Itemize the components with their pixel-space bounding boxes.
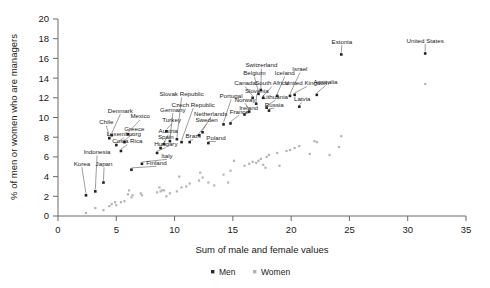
y-tick-label: 4	[44, 171, 49, 182]
legend-men-label: Men	[219, 267, 236, 277]
data-point-women	[165, 195, 167, 197]
y-axis-title: % of men or women who are managers	[8, 34, 19, 200]
x-tick-label: 0	[55, 224, 60, 235]
data-point-label: Brazil	[185, 132, 200, 139]
x-tick-label: 35	[461, 224, 472, 235]
data-point-women	[262, 164, 264, 166]
data-point-label: Mexico	[130, 112, 150, 119]
x-tick-label: 15	[228, 224, 239, 235]
data-point-men	[141, 162, 144, 165]
point-labels: KoreaIndonesiaJapanChileDenmarkLuxembour…	[74, 37, 444, 167]
data-point-women	[257, 160, 259, 162]
data-point-women	[268, 154, 270, 156]
data-point-women	[130, 196, 132, 198]
data-point-women	[169, 192, 171, 194]
data-point-label: Norway	[235, 96, 257, 103]
data-point-men	[108, 137, 111, 140]
data-point-men	[94, 190, 97, 193]
y-tick-label: 0	[44, 210, 49, 221]
label-leader	[299, 102, 302, 105]
data-point-women	[294, 147, 296, 149]
data-point-label: Switzerland	[245, 61, 278, 68]
data-point-label: Russia	[265, 101, 284, 108]
data-point-label: Hungary	[154, 140, 178, 147]
data-point-label: Czech Republic	[172, 101, 215, 108]
data-point-label: Sweden	[195, 116, 218, 123]
data-point-women	[316, 141, 318, 143]
data-point-men	[115, 144, 118, 147]
x-tick-label: 20	[286, 224, 297, 235]
x-tick-label: 30	[402, 224, 413, 235]
data-point-women	[163, 189, 165, 191]
data-point-men	[180, 141, 183, 144]
data-point-women	[266, 156, 268, 158]
y-tick-label: 14	[38, 73, 49, 84]
data-point-women	[115, 204, 117, 206]
data-point-men	[188, 141, 191, 144]
data-point-men	[207, 142, 210, 145]
chart-canvas: 02468101214161820 05101520253035 KoreaIn…	[0, 0, 490, 288]
data-point-women	[255, 162, 257, 164]
data-point-women	[127, 193, 129, 195]
data-point-women	[114, 201, 116, 203]
legend-women-marker	[253, 270, 256, 273]
label-leader	[341, 45, 342, 53]
data-point-label: Chile	[99, 118, 114, 125]
label-leader	[317, 86, 326, 94]
data-point-label: Slovak Republic	[159, 90, 203, 97]
data-point-women	[227, 181, 229, 183]
y-tick-label: 6	[44, 151, 49, 162]
axes-group	[58, 19, 466, 216]
data-point-label: Australia	[313, 78, 338, 85]
data-point-label: Italy	[161, 152, 173, 159]
y-tick-label: 18	[38, 33, 49, 44]
data-point-women	[260, 158, 262, 160]
data-point-women	[128, 189, 130, 191]
y-axis-ticks: 02468101214161820	[38, 13, 58, 221]
label-leader	[82, 167, 86, 193]
data-point-label: Netherlands	[194, 110, 227, 117]
data-point-women	[185, 185, 187, 187]
data-point-men	[424, 52, 427, 55]
data-point-men	[201, 131, 204, 134]
data-point-women	[176, 190, 178, 192]
data-point-label: Turkey	[162, 116, 182, 123]
data-point-women	[140, 192, 142, 194]
data-point-label: Costa Rica	[112, 137, 143, 144]
data-point-label: Greece	[124, 125, 145, 132]
data-point-label: Israel	[292, 65, 307, 72]
data-point-women	[158, 186, 160, 188]
data-point-men	[102, 181, 105, 184]
data-point-men	[156, 152, 159, 155]
data-point-women	[298, 145, 300, 147]
data-point-women	[278, 165, 280, 167]
data-point-women	[102, 209, 104, 211]
data-point-women	[201, 176, 203, 178]
label-leader	[231, 115, 240, 122]
data-point-women	[178, 176, 180, 178]
data-point-women	[85, 212, 87, 214]
data-point-women	[285, 150, 287, 152]
data-point-label: Estonia	[332, 38, 353, 45]
data-point-women	[264, 167, 266, 169]
data-point-label: Finland	[146, 159, 167, 166]
x-tick-label: 25	[344, 224, 355, 235]
data-point-men	[120, 150, 123, 153]
data-point-women	[252, 161, 254, 163]
data-point-women	[108, 205, 110, 207]
data-point-label: Lithuania	[263, 93, 289, 100]
data-point-men	[298, 105, 301, 108]
data-point-women	[329, 154, 331, 156]
data-point-women	[189, 182, 191, 184]
data-point-women	[289, 149, 291, 151]
label-leader	[190, 140, 193, 141]
data-point-women	[199, 172, 201, 174]
data-point-women	[123, 200, 125, 202]
data-point-women	[198, 179, 200, 181]
label-leader	[295, 86, 307, 93]
data-point-label: United States	[407, 37, 444, 44]
label-leader	[131, 166, 156, 168]
scatter-chart: 02468101214161820 05101520253035 KoreaIn…	[0, 0, 490, 288]
data-point-women	[207, 181, 209, 183]
data-point-women	[141, 194, 143, 196]
